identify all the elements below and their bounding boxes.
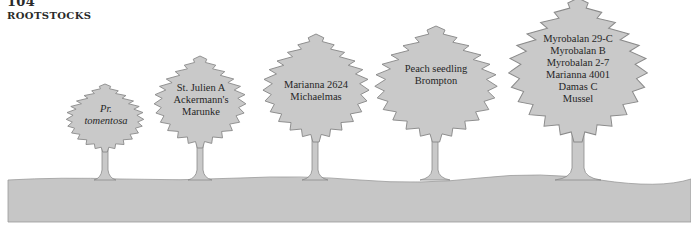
tree-label-3: Marianna 2624 Michaelmas: [284, 79, 348, 103]
tree-st-julien-a: [154, 56, 246, 180]
tree-label-1: Pr. tomentosa: [84, 103, 127, 127]
tree-pr-tomentosa: [66, 84, 144, 180]
tree-label-5: Myrobalan 29-C Myrobalan B Myrobalan 2-7…: [543, 33, 613, 105]
tree-label-4: Peach seedling Brompton: [405, 63, 468, 87]
tree-marianna-2624: [263, 34, 369, 180]
tree-peach-seedling: [375, 26, 497, 180]
ground: [8, 175, 691, 222]
tree-label-2: St. Julien A Ackermann's Marunke: [174, 82, 229, 118]
